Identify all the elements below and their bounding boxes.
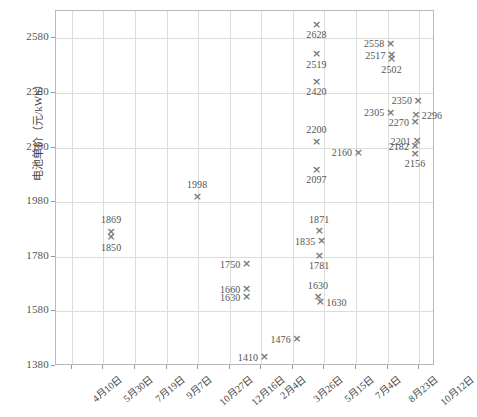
x-tick-mark <box>229 365 230 369</box>
data-point-label: 1630 <box>308 280 328 291</box>
x-tick-mark <box>418 365 419 369</box>
data-point-label: 1630 <box>220 291 240 302</box>
x-tick-mark <box>71 365 72 369</box>
y-gridline <box>56 311 433 312</box>
data-point-label: 1998 <box>187 179 207 190</box>
data-point-label: 1781 <box>309 260 329 271</box>
x-tick-label: 10月27日 <box>215 371 255 408</box>
data-point-label: 1869 <box>101 214 121 225</box>
y-gridline <box>56 148 433 149</box>
data-point-label: 1871 <box>309 214 329 225</box>
y-tick-label: 1980 <box>0 194 49 206</box>
data-point-label: 1835 <box>295 235 315 246</box>
x-tick-label: 7月19日 <box>151 371 187 405</box>
data-point-label: 2270 <box>389 116 409 127</box>
x-tick-mark <box>166 365 167 369</box>
x-tick-label: 3月26日 <box>309 371 345 405</box>
y-tick-label: 1780 <box>0 249 49 261</box>
data-point-label: 2420 <box>306 86 326 97</box>
data-point-label: 2200 <box>306 124 326 135</box>
y-tick-mark <box>51 201 55 202</box>
data-point-label: 2182 <box>389 140 409 151</box>
data-point-label: 2097 <box>306 174 326 185</box>
y-gridline <box>56 257 433 258</box>
y-tick-mark <box>51 92 55 93</box>
y-tick-mark <box>51 37 55 38</box>
y-gridline <box>56 202 433 203</box>
data-point-label: 2350 <box>392 95 412 106</box>
data-point-label: 1850 <box>101 242 121 253</box>
y-tick-label: 2580 <box>0 30 49 42</box>
x-tick-label: 10月12日 <box>437 371 477 408</box>
y-tick-label: 1580 <box>0 303 49 315</box>
y-tick-mark <box>51 147 55 148</box>
x-tick-label: 4月10日 <box>88 371 124 405</box>
data-point-label: 1476 <box>270 333 290 344</box>
plot-area <box>55 10 434 365</box>
x-tick-mark <box>102 365 103 369</box>
y-gridline <box>56 93 433 94</box>
data-point-label: 1750 <box>220 258 240 269</box>
y-tick-mark <box>51 310 55 311</box>
x-tick-label: 8月23日 <box>404 371 440 405</box>
x-tick-label: 7月4日 <box>371 371 404 402</box>
data-point-label: 2160 <box>332 147 352 158</box>
x-tick-label: 5月30日 <box>120 371 156 405</box>
y-tick-label: 2180 <box>0 140 49 152</box>
y-tick-mark <box>51 256 55 257</box>
data-point-label: 2305 <box>364 107 384 118</box>
data-point-label: 2502 <box>381 64 401 75</box>
x-tick-mark <box>260 365 261 369</box>
data-point-label: 2628 <box>306 29 326 40</box>
x-tick-label: 9月7日 <box>182 371 215 402</box>
x-tick-mark <box>197 365 198 369</box>
x-tick-mark <box>292 365 293 369</box>
data-point-label: 2296 <box>422 109 442 120</box>
y-tick-mark <box>51 365 55 366</box>
data-point-label: 2519 <box>306 59 326 70</box>
x-tick-mark <box>355 365 356 369</box>
data-point-label: 1410 <box>238 351 258 362</box>
y-tick-label: 1380 <box>0 358 49 370</box>
data-point-label: 2558 <box>364 38 384 49</box>
data-point-label: 2156 <box>405 158 425 169</box>
data-point-label: 1630 <box>326 296 346 307</box>
y-tick-label: 2380 <box>0 85 49 97</box>
x-tick-mark <box>134 365 135 369</box>
x-tick-mark <box>323 365 324 369</box>
data-point-label: 2517 <box>365 49 385 60</box>
x-tick-mark <box>387 365 388 369</box>
